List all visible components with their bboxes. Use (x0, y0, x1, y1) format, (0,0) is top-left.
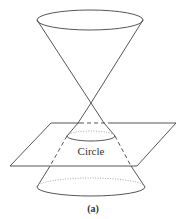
circle-label: Circle (78, 145, 105, 157)
upper-cone-right-edge (91, 20, 143, 103)
lower-cone-rim-back (37, 178, 145, 187)
intersection-circle-back (67, 131, 115, 136)
upper-cone (37, 10, 143, 103)
lower-cone-right-edge-lower (131, 166, 145, 187)
lower-cone-right-edge-hidden (115, 136, 131, 166)
lower-cone-left-edge-lower (37, 166, 50, 187)
lower-cone-left-edge-hidden (50, 136, 67, 166)
lower-cone-rim-front (37, 187, 145, 196)
figure-caption: (a) (87, 203, 99, 215)
lower-cone-left-edge-upper (78, 103, 91, 123)
upper-cone-left-edge (37, 20, 91, 103)
intersection-circle (67, 131, 115, 141)
upper-cone-rim (37, 10, 143, 30)
lower-cone-right-edge-upper (91, 103, 104, 123)
conic-section-diagram: Circle (a) (0, 0, 189, 219)
intersection-circle-front (67, 136, 115, 141)
